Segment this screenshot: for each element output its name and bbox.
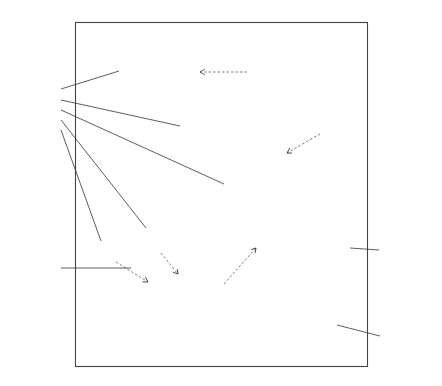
extend-move-to-data-reduction (287, 134, 320, 153)
assoc-oa-attr-instance (350, 248, 379, 250)
assoc-gm-create-agents (61, 130, 101, 241)
extend-delete-to-population (161, 253, 178, 274)
assoc-gm-identify-tasks (61, 100, 180, 126)
assoc-gm-delete-agents (61, 120, 146, 228)
assoc-gm-global-classifier (61, 71, 119, 89)
dependencies (116, 72, 320, 284)
extend-create-to-population (116, 262, 148, 282)
assoc-gm-data-reduction (61, 110, 224, 184)
use-case-diagram (0, 0, 442, 386)
assoc-am-attr-coord (337, 325, 380, 336)
associations (61, 71, 380, 336)
include-population-to-attr-instance (224, 248, 256, 284)
